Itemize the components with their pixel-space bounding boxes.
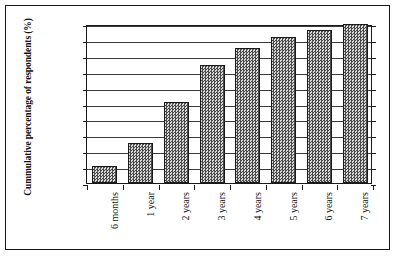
bar (307, 30, 332, 183)
chart-figure: Cummulative percentage of respondents (%… (5, 5, 390, 250)
x-tick-mark (266, 185, 267, 190)
y-axis-title: Cummulative percentage of respondents (%… (23, 12, 33, 202)
y-tick-mark-right (371, 26, 376, 27)
x-tick-mark (159, 185, 160, 190)
y-tick-mark-right (371, 74, 376, 75)
y-tick-mark-right (371, 106, 376, 107)
y-tick-mark-right (371, 121, 376, 122)
bar-series (87, 26, 371, 183)
y-tick-mark-right (371, 169, 376, 170)
x-tick-mark (373, 185, 374, 190)
bar (92, 166, 117, 183)
x-tick-label: 7 years (359, 192, 370, 262)
bar (200, 65, 225, 183)
x-tick-mark (194, 185, 195, 190)
bar (235, 48, 260, 183)
x-tick-mark (337, 185, 338, 190)
x-tick-mark (230, 185, 231, 190)
bar (128, 143, 153, 183)
y-tick-mark-right (371, 137, 376, 138)
y-tick-mark-right (371, 58, 376, 59)
x-tick-label: 1 year (145, 192, 156, 262)
plot-area: 0102030405060708090100 (86, 25, 372, 184)
x-tick-label: 4 years (252, 192, 263, 262)
y-tick-mark-right (371, 90, 376, 91)
x-tick-label: 2 years (180, 192, 191, 262)
y-tick-mark-right (371, 42, 376, 43)
bar (343, 24, 368, 183)
x-tick-label: 6 months (109, 192, 120, 262)
x-tick-label: 6 years (323, 192, 334, 262)
x-tick-mark (87, 185, 88, 190)
bar (271, 37, 296, 183)
x-tick-mark (123, 185, 124, 190)
x-tick-label: 5 years (288, 192, 299, 262)
bar (164, 102, 189, 183)
x-tick-label: 3 years (216, 192, 227, 262)
x-tick-mark (302, 185, 303, 190)
y-tick-mark-right (371, 153, 376, 154)
